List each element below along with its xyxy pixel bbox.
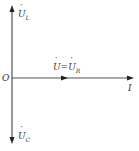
current-label: I bbox=[128, 84, 132, 93]
uC-label-base: U bbox=[18, 131, 26, 141]
voltage-label-eq: = bbox=[61, 62, 69, 72]
origin-label: O bbox=[2, 74, 9, 83]
uL-arrow-head-icon bbox=[10, 5, 15, 12]
uL-label: UL bbox=[18, 10, 30, 21]
uC-label-sub: C bbox=[26, 136, 31, 143]
uL-label-base: U bbox=[18, 9, 26, 19]
voltage-arrow-head-icon bbox=[61, 76, 68, 81]
voltage-label: U=UR bbox=[53, 63, 80, 74]
uL-label-sub: L bbox=[26, 14, 30, 21]
uC-label: UC bbox=[18, 132, 30, 143]
current-label-base: I bbox=[128, 83, 132, 93]
uC-arrow-head-icon bbox=[10, 137, 15, 144]
voltage-label-right-sub: R bbox=[76, 67, 81, 74]
voltage-label-left: U bbox=[53, 62, 61, 72]
voltage-label-right: U bbox=[68, 62, 76, 72]
